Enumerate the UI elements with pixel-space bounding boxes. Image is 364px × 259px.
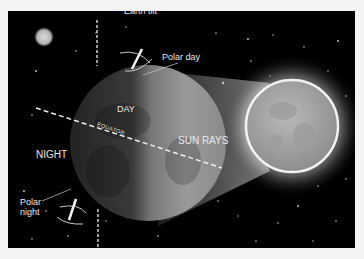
earth-tilt-label: Earth tilt xyxy=(124,11,157,16)
day-label: DAY xyxy=(117,105,135,114)
polar-night-label-line1: Polar xyxy=(20,198,41,207)
diagram-graphic xyxy=(8,11,355,248)
tilted-axis-bottom xyxy=(69,199,76,220)
polar-day-label: Polar day xyxy=(162,53,200,62)
moon xyxy=(34,27,54,47)
polar-night-label-line2: night xyxy=(20,208,40,217)
sun xyxy=(246,80,338,172)
night-label: NIGHT xyxy=(36,150,67,160)
sun-rays-label: SUN RAYS xyxy=(178,136,228,146)
space-diagram: Earth tilt Polar day DAY NIGHT EQUATOR S… xyxy=(8,11,355,248)
